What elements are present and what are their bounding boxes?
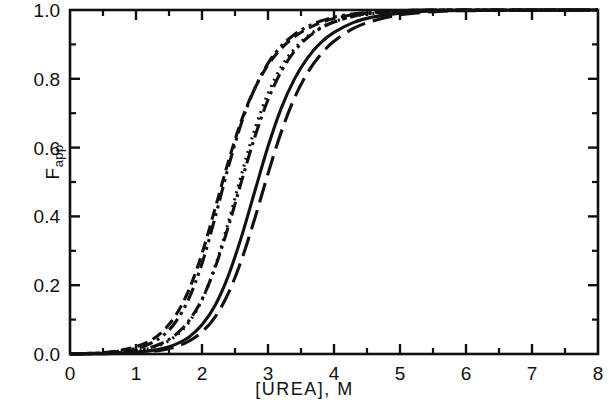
y-axis-label-subscript: app	[51, 144, 66, 167]
y-tick-label: 0.2	[34, 275, 60, 296]
plot-frame	[70, 10, 598, 354]
plot-canvas: 0123456780.00.20.40.60.81.0	[0, 0, 609, 406]
y-tick-label: 0.8	[34, 69, 60, 90]
y-axis-label: Fapp	[42, 102, 66, 222]
data-series-curve-3	[70, 10, 598, 354]
data-series-curve-4	[70, 10, 598, 354]
data-series-curve-5	[70, 10, 598, 354]
y-axis-label-base: F	[42, 167, 63, 179]
data-series-curve-6	[70, 10, 598, 354]
y-tick-label: 1.0	[34, 0, 60, 21]
data-series-curve-1	[70, 10, 598, 354]
figure-urea-denaturation: 0123456780.00.20.40.60.81.0 [UREA], M Fa…	[0, 0, 609, 406]
x-axis-label: [UREA], M	[0, 379, 609, 400]
y-tick-label: 0.0	[34, 344, 60, 365]
data-series-curve-2	[70, 10, 598, 354]
